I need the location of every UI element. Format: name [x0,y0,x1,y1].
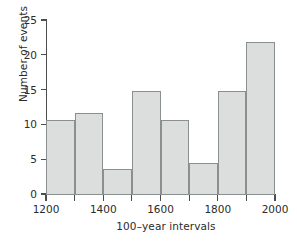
x-tick-mark [74,195,75,201]
histogram-bar [132,91,161,195]
x-tick-label: 1800 [198,203,238,215]
x-tick-label: 1600 [141,203,181,215]
x-tick-mark [189,195,190,201]
histogram-bar [103,169,132,195]
histogram-bar [218,91,247,195]
y-tick-label: 15 [6,85,37,95]
x-tick-label: 2000 [255,203,295,215]
histogram-figure: Number of events 0510152025 120014001600… [0,0,297,241]
y-tick-label: 10 [6,119,37,129]
x-axis-title: 100–year intervals [46,220,286,232]
histogram-bar [161,120,190,195]
histogram-bar [75,113,104,195]
x-tick-mark [274,195,275,201]
x-tick-mark [160,195,161,201]
y-tick-label: 25 [6,15,37,25]
y-tick-label: 5 [6,154,37,164]
plot-area [46,20,275,195]
y-tick-label: 20 [6,50,37,60]
histogram-bar [189,163,218,195]
histogram-bar [46,120,75,195]
x-tick-label: 1200 [26,203,66,215]
x-tick-label: 1400 [83,203,123,215]
y-tick-label: 0 [6,189,37,199]
x-tick-mark [246,195,247,201]
histogram-bar [246,42,275,195]
x-tick-mark [103,195,104,201]
x-tick-mark [45,195,46,201]
x-tick-mark [131,195,132,201]
x-tick-mark [217,195,218,201]
